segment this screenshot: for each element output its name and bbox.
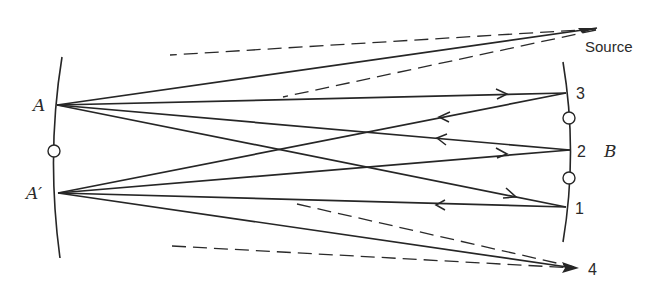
- mirror-b: [563, 62, 575, 242]
- label-spot-2: 2: [577, 143, 586, 160]
- mirror-b-lower-hole-icon: [563, 172, 575, 184]
- rays: [57, 28, 597, 268]
- dashed-output-upper: [297, 204, 574, 267]
- beam-envelope-dashed: [170, 29, 596, 268]
- mirror-a-hole-icon: [48, 145, 60, 157]
- multipass-cell-diagram: A A′ B 3 2 1 4 Source: [0, 0, 664, 287]
- dashed-output-lower: [172, 246, 574, 268]
- label-a: A: [31, 95, 45, 115]
- mirror-b-surface: [563, 62, 571, 242]
- direction-arrows: [436, 28, 597, 273]
- label-output-4: 4: [588, 261, 597, 278]
- label-b: B: [603, 141, 617, 161]
- label-spot-1: 1: [575, 200, 584, 217]
- output-arrowhead-icon: [562, 262, 579, 273]
- mirror-a: [48, 57, 62, 258]
- mirror-b-upper-hole-icon: [563, 112, 575, 124]
- arrow-left-icon: [436, 200, 445, 210]
- dashed-source-lower: [283, 30, 596, 97]
- labels: A A′ B 3 2 1 4 Source: [24, 38, 633, 278]
- label-source: Source: [585, 38, 633, 55]
- label-a-prime: A′: [24, 183, 42, 203]
- label-spot-3: 3: [576, 85, 585, 102]
- dashed-source-upper: [170, 29, 596, 55]
